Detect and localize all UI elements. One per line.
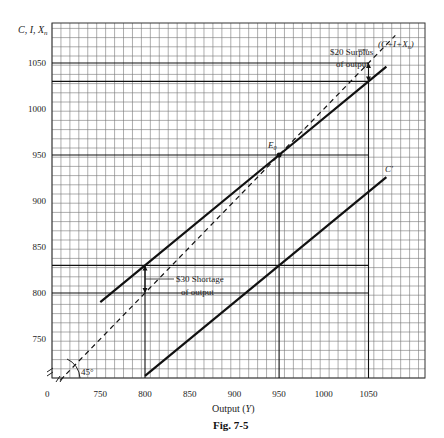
shortage-label-2: of output — [181, 287, 214, 297]
x-tick-label: 900 — [228, 389, 242, 399]
x-tick-label: 800 — [138, 389, 152, 399]
y-tick-label: 1000 — [28, 104, 47, 114]
x-tick-label: 950 — [272, 389, 286, 399]
shortage-label-1: $30 Shortage — [176, 274, 224, 284]
y-tick-label: 750 — [33, 334, 47, 344]
surplus-label-2: of output — [336, 59, 369, 69]
y-tick-label: 1050 — [28, 58, 47, 68]
surplus-label-1: $20 Surplus — [330, 47, 374, 57]
y-axis-title: C, I, Xn — [18, 24, 48, 37]
y-tick-label: 850 — [33, 242, 47, 252]
y-tick-label: 800 — [33, 288, 47, 298]
figure-caption: Fig. 7-5 — [213, 419, 249, 431]
consumption-label: C' — [385, 164, 394, 174]
x-tick-label: 1000 — [315, 389, 334, 399]
y-tick-label: 900 — [33, 196, 47, 206]
x-tick-label: 1050 — [360, 389, 379, 399]
y-tick-label: 950 — [33, 150, 47, 160]
series-lines — [60, 35, 395, 380]
axis-break-icon — [47, 368, 64, 382]
reference-lines — [52, 63, 369, 378]
x-tick-label: 850 — [183, 389, 197, 399]
x-axis-title: Output (Y) — [212, 403, 255, 415]
angle-label: 45° — [81, 367, 94, 377]
chart: 7508008509009501000105075080085090095010… — [0, 0, 444, 438]
equilibrium-label: E0 — [267, 140, 277, 151]
origin-label: 0 — [45, 389, 50, 399]
x-tick-label: 750 — [94, 389, 108, 399]
aggregate-demand-label: (C+I+Xn) — [378, 39, 414, 50]
